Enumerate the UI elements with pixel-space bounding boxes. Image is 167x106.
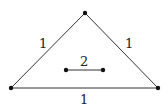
edge-top-left [11, 13, 85, 88]
node-inner-left [64, 68, 68, 72]
node-bottom-left [9, 86, 13, 90]
edge-label-inner: 2 [80, 54, 88, 69]
edge-label-bottom: 1 [80, 92, 88, 106]
graph-diagram: 1 1 1 2 [0, 0, 167, 106]
graph-svg: 1 1 1 2 [0, 0, 167, 106]
node-inner-right [101, 68, 105, 72]
node-top [83, 11, 87, 15]
edge-label-left: 1 [39, 36, 47, 51]
node-bottom-right [156, 86, 160, 90]
edge-top-right [85, 13, 158, 88]
edge-label-right: 1 [125, 36, 133, 51]
